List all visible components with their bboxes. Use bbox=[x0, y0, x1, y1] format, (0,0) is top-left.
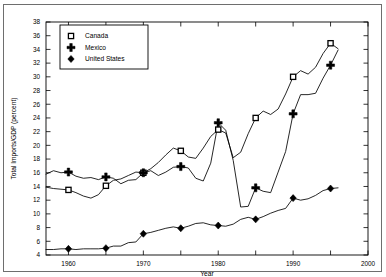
marker-mexico bbox=[177, 163, 185, 171]
y-tick-label: 18 bbox=[33, 155, 41, 162]
marker-mexico bbox=[327, 61, 335, 69]
marker-united-states bbox=[65, 245, 71, 252]
marker-united-states bbox=[103, 245, 109, 252]
marker-united-states bbox=[252, 216, 258, 223]
x-tick-label: 1990 bbox=[286, 260, 301, 267]
marker-united-states bbox=[327, 185, 333, 192]
y-tick-label: 10 bbox=[33, 210, 41, 217]
y-tick-label: 28 bbox=[33, 87, 41, 94]
marker-canada bbox=[291, 74, 296, 79]
legend-label-united-states[interactable]: United States bbox=[85, 55, 125, 62]
y-tick-label: 26 bbox=[33, 101, 41, 108]
marker-united-states bbox=[215, 222, 221, 229]
marker-mexico bbox=[289, 110, 297, 118]
y-tick-label: 14 bbox=[33, 183, 41, 190]
line-chart: 4681012141618202224262830323436381960197… bbox=[0, 0, 386, 277]
y-tick-label: 34 bbox=[33, 46, 41, 53]
marker-canada bbox=[103, 183, 108, 188]
marker-canada bbox=[253, 115, 258, 120]
y-axis-title: Total Imports/GDP (percent) bbox=[10, 98, 18, 180]
y-tick-label: 32 bbox=[33, 59, 41, 66]
x-tick-label: 1980 bbox=[211, 260, 226, 267]
legend-label-canada[interactable]: Canada bbox=[85, 32, 108, 39]
y-tick-label: 6 bbox=[36, 238, 40, 245]
y-tick-label: 8 bbox=[36, 224, 40, 231]
marker-mexico bbox=[252, 184, 260, 192]
y-tick-label: 24 bbox=[33, 114, 41, 121]
y-tick-label: 20 bbox=[33, 142, 41, 149]
axis-titles: YearTotal Imports/GDP (percent) bbox=[10, 98, 214, 277]
y-tick-label: 36 bbox=[33, 32, 41, 39]
y-tick-label: 38 bbox=[33, 18, 41, 25]
y-tick-label: 4 bbox=[36, 251, 40, 258]
legend-marker-open-square bbox=[68, 33, 73, 38]
marker-canada bbox=[216, 127, 221, 132]
y-tick-label: 22 bbox=[33, 128, 41, 135]
marker-mexico bbox=[64, 168, 72, 176]
y-tick-label: 12 bbox=[33, 196, 41, 203]
marker-canada bbox=[178, 148, 183, 153]
marker-mexico bbox=[102, 173, 110, 181]
series-markers bbox=[64, 41, 334, 253]
chart-figure: 4681012141618202224262830323436381960197… bbox=[0, 0, 386, 277]
x-tick-label: 1970 bbox=[136, 260, 151, 267]
y-tick-label: 30 bbox=[33, 73, 41, 80]
legend-label-mexico[interactable]: Mexico bbox=[85, 44, 106, 51]
marker-canada bbox=[328, 41, 333, 46]
marker-united-states bbox=[178, 225, 184, 232]
marker-canada bbox=[66, 187, 71, 192]
x-tick-label: 2000 bbox=[361, 260, 376, 267]
y-tick-label: 16 bbox=[33, 169, 41, 176]
chart-legend[interactable]: CanadaMexicoUnited States bbox=[60, 25, 148, 69]
x-axis-title: Year bbox=[200, 270, 214, 277]
x-tick-label: 1960 bbox=[61, 260, 76, 267]
